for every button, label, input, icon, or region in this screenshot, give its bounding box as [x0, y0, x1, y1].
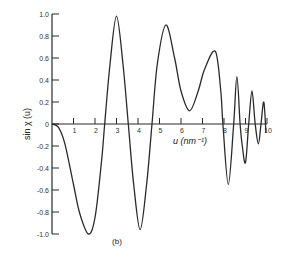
y-tick-label: 0.8	[39, 33, 49, 40]
y-tick-label: -1.0	[37, 231, 49, 238]
x-axis: 12345678910	[52, 118, 272, 134]
x-tick-label: 6	[180, 127, 184, 134]
chart: 1.00.80.60.40.20-0.2-0.4-0.6-0.8-1.0 123…	[0, 0, 285, 261]
data-line	[52, 16, 266, 234]
x-axis-title: u (nm⁻¹)	[173, 136, 207, 146]
x-tick-label: 1	[73, 127, 77, 134]
y-tick-label: -0.4	[37, 165, 49, 172]
x-tick-label: 2	[94, 127, 98, 134]
y-tick-label: -0.8	[37, 209, 49, 216]
y-tick-label: -0.6	[37, 187, 49, 194]
y-tick-label: 0.4	[39, 77, 49, 84]
y-axis-title: sin χ (u)	[22, 108, 32, 140]
x-tick-label: 5	[159, 127, 163, 134]
panel-label: (b)	[112, 237, 122, 246]
x-tick-label: 4	[137, 127, 141, 134]
y-tick-label: 0.6	[39, 55, 49, 62]
x-tick-label: 7	[202, 127, 206, 134]
y-tick-label: 0.2	[39, 99, 49, 106]
x-tick-label: 3	[116, 127, 120, 134]
y-tick-label: 0	[45, 121, 49, 128]
y-tick-label: 1.0	[39, 11, 49, 18]
y-tick-label: -0.2	[37, 143, 49, 150]
